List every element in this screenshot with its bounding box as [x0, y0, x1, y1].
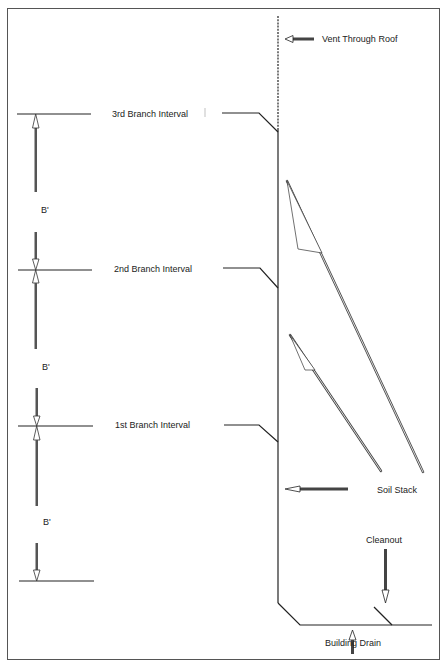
branch-1-line — [224, 425, 278, 442]
branch-3-line — [222, 113, 278, 132]
soil-stack-label: Soil Stack — [377, 485, 418, 495]
b-prime-label-3: B' — [43, 517, 51, 527]
branch-3-label: 3rd Branch Interval — [112, 109, 188, 119]
vent-arrow-icon — [285, 36, 314, 43]
cleanout-arrow-icon — [382, 549, 389, 603]
cleanout-fitting — [374, 607, 392, 625]
pointer-arrow-icon — [287, 181, 423, 472]
dimension-arrow-icon — [33, 114, 41, 581]
soil-stack-arrow-icon — [285, 486, 348, 492]
branch-1-label: 1st Branch Interval — [115, 420, 190, 430]
cleanout-label: Cleanout — [366, 535, 403, 545]
branch-2-label: 2nd Branch Interval — [114, 264, 192, 274]
vent-through-roof-label: Vent Through Roof — [322, 34, 398, 44]
branch-2-line — [223, 268, 278, 288]
plumbing-stack-diagram: Vent Through Roof 3rd Branch Interval 2n… — [0, 0, 448, 668]
stack-base-offset — [278, 603, 432, 625]
building-drain-label: Building Drain — [325, 638, 381, 648]
diagram-frame — [8, 9, 440, 660]
b-prime-label-2: B' — [42, 362, 50, 372]
b-prime-label-1: B' — [41, 205, 49, 215]
